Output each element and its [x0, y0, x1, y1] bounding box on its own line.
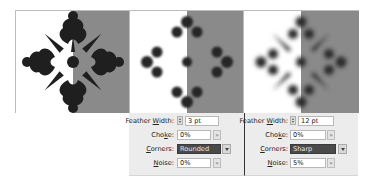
feather-width-label: Feather Width:	[239, 117, 288, 125]
noise-input[interactable]: 5%	[290, 158, 326, 168]
feathered-flower-rounded-icon	[130, 11, 245, 113]
feather-width-input[interactable]: 12 pt	[298, 116, 334, 126]
choke-row: Choke: 0% »	[245, 129, 358, 141]
corners-chevron-down-icon[interactable]	[338, 144, 347, 154]
choke-row: Choke: 0% »	[129, 129, 244, 141]
artwork-feather-sharp	[243, 10, 359, 113]
corners-label: Corners:	[260, 145, 288, 153]
feather-width-label: Feather Width:	[125, 117, 174, 125]
noise-slider-arrow-icon[interactable]: »	[213, 158, 221, 168]
choke-label: Choke:	[151, 131, 174, 139]
corners-label: Corners:	[146, 145, 174, 153]
artwork-original	[15, 10, 131, 113]
noise-input[interactable]: 0%	[177, 158, 211, 168]
feather-width-row: Feather Width: 3 pt	[129, 115, 244, 127]
noise-slider-arrow-icon[interactable]: »	[327, 158, 335, 168]
noise-label: Noise:	[267, 159, 288, 167]
corners-row: Corners: Rounded	[129, 143, 244, 155]
corners-row: Corners: Sharp	[245, 143, 358, 155]
choke-label: Choke:	[265, 131, 288, 139]
feather-options-panel-2: Feather Width: 12 pt Choke: 0% » Corners…	[245, 113, 358, 176]
choke-slider-arrow-icon[interactable]: »	[327, 130, 335, 140]
flower-ornament-icon	[16, 11, 131, 113]
choke-input[interactable]: 0%	[290, 130, 326, 140]
feather-width-input[interactable]: 3 pt	[185, 116, 219, 126]
choke-slider-arrow-icon[interactable]: »	[213, 130, 221, 140]
feathered-flower-sharp-icon	[244, 11, 359, 113]
feather-options-panel-1: Feather Width: 3 pt Choke: 0% » Corners:…	[129, 113, 245, 176]
artwork-feather-rounded	[129, 10, 245, 113]
choke-input[interactable]: 0%	[177, 130, 211, 140]
feather-width-stepper-icon[interactable]	[290, 116, 296, 125]
corners-select[interactable]: Sharp	[290, 144, 336, 154]
corners-select[interactable]: Rounded	[177, 144, 221, 154]
noise-label: Noise:	[153, 159, 174, 167]
corners-chevron-down-icon[interactable]	[222, 144, 231, 154]
noise-row: Noise: 5% »	[245, 157, 358, 169]
feather-width-row: Feather Width: 12 pt	[245, 115, 358, 127]
noise-row: Noise: 0% »	[129, 157, 244, 169]
feather-width-stepper-icon[interactable]	[177, 116, 183, 125]
